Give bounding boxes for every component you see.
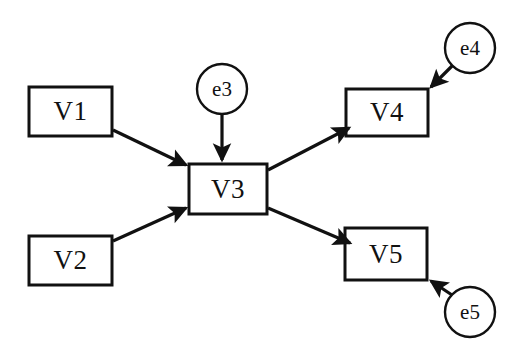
node-rect-v1[interactable] [29, 87, 112, 136]
arrow-v3-to-v4[interactable] [268, 128, 349, 170]
node-rect-v5[interactable] [345, 228, 427, 280]
node-circle-e5[interactable] [445, 287, 495, 337]
arrow-v3-to-v5[interactable] [268, 208, 350, 243]
observed-variable-shapes [29, 87, 428, 285]
arrow-e4-to-v4[interactable] [431, 66, 452, 87]
arrow-v1-to-v3[interactable] [113, 130, 186, 165]
node-rect-v4[interactable] [346, 89, 428, 136]
arrow-v2-to-v3[interactable] [113, 208, 186, 241]
arrow-e5-to-v5[interactable] [431, 281, 452, 295]
node-rect-v2[interactable] [29, 236, 112, 285]
node-circle-e4[interactable] [445, 23, 495, 73]
path-diagram-canvas: V1 V2 V3 V4 V5 e3 e4 e5 [0, 0, 527, 362]
diagram-svg [0, 0, 527, 362]
node-rect-v3[interactable] [189, 164, 267, 214]
node-circle-e3[interactable] [197, 64, 247, 114]
